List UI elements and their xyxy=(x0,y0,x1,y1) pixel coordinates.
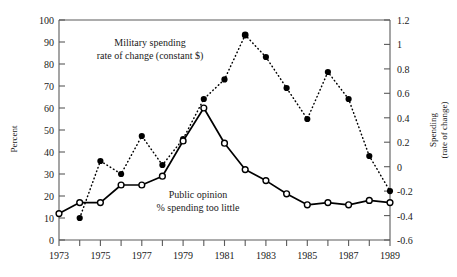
data-point-opinion-1978 xyxy=(160,173,166,179)
data-point-opinion-1980 xyxy=(201,105,207,111)
right-tick-label: 1 xyxy=(397,39,402,50)
data-point-opinion-1989 xyxy=(387,200,393,206)
left-tick-label: 50 xyxy=(44,125,54,136)
right-tick-label: 0.6 xyxy=(397,88,410,99)
data-point-military-1978 xyxy=(159,162,165,168)
data-point-opinion-1974 xyxy=(77,200,83,206)
data-point-military-1980 xyxy=(201,96,207,102)
data-point-opinion-1984 xyxy=(284,191,290,197)
data-point-military-1975 xyxy=(97,158,103,164)
x-tick-label-1987: 1987 xyxy=(339,250,359,261)
chart-svg: 100 90 80 70 60 50 40 30 20 10 0 1.2 xyxy=(0,0,457,277)
left-tick-label: 0 xyxy=(49,235,54,246)
left-tick-label: 80 xyxy=(44,59,54,70)
data-point-opinion-1977 xyxy=(139,182,145,188)
x-tick-label-1981: 1981 xyxy=(215,250,235,261)
left-tick-label: 90 xyxy=(44,37,54,48)
right-tick-label: -0.4 xyxy=(397,211,413,222)
data-point-military-1985 xyxy=(304,116,310,122)
data-point-military-1986 xyxy=(325,69,331,75)
y2-axis-title-line2: (rate of change) xyxy=(439,102,449,159)
opinion-label-line1: Public opinion xyxy=(169,189,228,200)
data-point-military-1989 xyxy=(387,188,393,194)
right-tick-label: 0.8 xyxy=(397,64,410,75)
x-tick-label-1989: 1989 xyxy=(380,250,400,261)
left-tick-label: 10 xyxy=(44,213,54,224)
data-point-military-1984 xyxy=(284,85,290,91)
y2-axis-title-line1: Spending xyxy=(428,113,438,148)
left-tick-label: 100 xyxy=(39,15,54,26)
data-point-military-1988 xyxy=(366,153,372,159)
right-tick-label: -0.2 xyxy=(397,186,413,197)
data-point-opinion-1985 xyxy=(304,202,310,208)
x-tick-label-1975: 1975 xyxy=(90,250,110,261)
data-point-military-1974 xyxy=(77,215,83,221)
data-point-military-1981 xyxy=(221,76,227,82)
right-tick-label: 1.2 xyxy=(397,15,410,26)
x-tick-label-1977: 1977 xyxy=(132,250,152,261)
left-tick-label: 60 xyxy=(44,103,54,114)
right-tick-label: 0.2 xyxy=(397,137,410,148)
left-tick-label: 40 xyxy=(44,147,54,158)
military-label-line1: Military spending xyxy=(114,37,185,48)
data-point-opinion-1973 xyxy=(56,211,62,217)
data-point-military-1983 xyxy=(263,54,269,60)
chart-figure: 100 90 80 70 60 50 40 30 20 10 0 1.2 xyxy=(0,0,457,277)
data-point-opinion-1979 xyxy=(180,138,186,144)
x-tick-label-1973: 1973 xyxy=(49,250,69,261)
data-point-opinion-1982 xyxy=(242,167,248,173)
military-label-line2: rate of change (constant $) xyxy=(97,50,204,62)
right-tick-label: 0 xyxy=(397,162,402,173)
x-tick-label-1985: 1985 xyxy=(297,250,317,261)
y-axis-title: Percent xyxy=(9,125,19,152)
data-point-opinion-1981 xyxy=(222,140,228,146)
data-point-opinion-1975 xyxy=(98,200,104,206)
x-tick-label-1979: 1979 xyxy=(173,250,193,261)
right-tick-label: -0.6 xyxy=(397,235,413,246)
x-axis-tick-labels: 1973 1975 1977 1979 1981 1983 1985 1987 … xyxy=(49,250,400,261)
right-tick-label: 0.4 xyxy=(397,113,410,124)
data-point-military-1982 xyxy=(242,32,249,39)
data-point-opinion-1988 xyxy=(366,198,372,204)
data-point-military-1977 xyxy=(139,133,145,139)
data-point-military-1987 xyxy=(346,96,352,102)
chart-background xyxy=(0,0,457,277)
data-point-military-1976 xyxy=(118,171,124,177)
data-point-opinion-1987 xyxy=(346,202,352,208)
left-tick-label: 30 xyxy=(44,169,54,180)
data-point-opinion-1976 xyxy=(118,182,124,188)
left-tick-label: 70 xyxy=(44,81,54,92)
left-tick-label: 20 xyxy=(44,191,54,202)
data-point-opinion-1983 xyxy=(263,178,269,184)
x-tick-label-1983: 1983 xyxy=(256,250,276,261)
opinion-label-line2: % spending too little xyxy=(156,202,240,213)
data-point-opinion-1986 xyxy=(325,200,331,206)
